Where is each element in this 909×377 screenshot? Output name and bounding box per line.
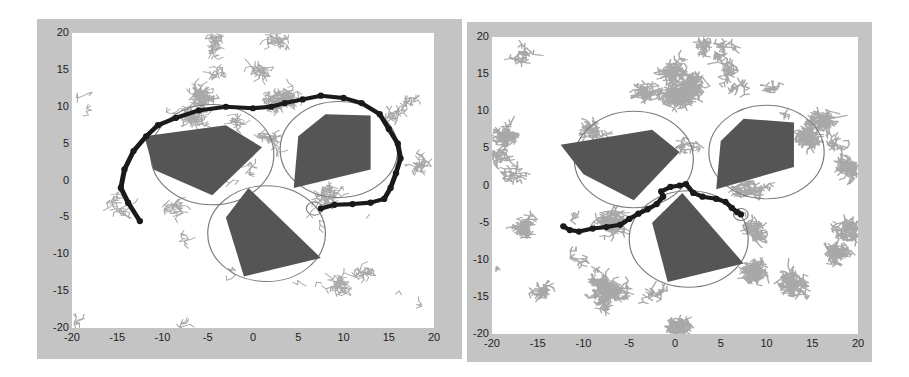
y-tick-label: 15 — [39, 64, 69, 75]
x-tick-label: -20 — [477, 338, 507, 349]
plot-content — [74, 33, 432, 328]
path-node-marker — [603, 224, 609, 230]
y-tick-label: 10 — [39, 101, 69, 112]
path-node-marker — [118, 185, 124, 191]
path-node-marker — [331, 202, 337, 208]
x-tick-label: -15 — [523, 338, 553, 349]
path-node-marker — [358, 100, 364, 106]
path-node-marker — [589, 225, 595, 231]
y-tick-label: 0 — [39, 175, 69, 186]
path-node-marker — [658, 188, 664, 194]
y-tick-label: 0 — [459, 180, 489, 191]
path-node-marker — [387, 185, 393, 191]
obstacle-polygon — [716, 119, 794, 190]
y-tick-label: -5 — [39, 211, 69, 222]
x-tick-label: 5 — [283, 332, 313, 343]
path-node-marker — [635, 211, 641, 217]
x-tick-label: 10 — [329, 332, 359, 343]
path-node-marker — [626, 216, 632, 222]
obstacle-polygon — [294, 114, 371, 188]
y-tick-label: 20 — [459, 31, 489, 42]
y-tick-label: 20 — [39, 27, 69, 38]
y-tick-label: 15 — [459, 68, 489, 79]
obstacle-polygon — [226, 188, 321, 277]
path-node-marker — [155, 122, 161, 128]
path-node-marker — [676, 182, 682, 188]
path-node-marker — [683, 181, 689, 187]
obstacle-polygon — [144, 125, 262, 195]
path-node-marker — [386, 126, 392, 132]
solution-path — [563, 184, 741, 232]
path-node-marker — [340, 95, 346, 101]
path-node-marker — [617, 222, 623, 228]
path-node-marker — [268, 104, 274, 110]
y-tick-label: -10 — [459, 254, 489, 265]
x-tick-label: -5 — [614, 338, 644, 349]
plot-area-left — [72, 33, 434, 328]
x-tick-label: -5 — [193, 332, 223, 343]
path-node-marker — [377, 111, 383, 117]
x-tick-label: -20 — [57, 332, 87, 343]
x-tick-label: 5 — [706, 338, 736, 349]
path-node-marker — [699, 194, 705, 200]
y-tick-label: -5 — [459, 217, 489, 228]
path-node-marker — [250, 105, 256, 111]
path-node-marker — [300, 96, 306, 102]
x-tick-label: 10 — [752, 338, 782, 349]
path-node-marker — [367, 200, 373, 206]
path-node-marker — [713, 196, 719, 202]
path-node-marker — [560, 223, 566, 229]
path-node-marker — [143, 133, 149, 139]
y-tick-label: 10 — [459, 105, 489, 116]
chart-svg-left — [72, 33, 434, 328]
x-tick-label: 20 — [419, 332, 449, 343]
path-node-marker — [137, 218, 143, 224]
plot-area-right — [492, 37, 858, 334]
x-tick-label: 15 — [797, 338, 827, 349]
path-node-marker — [381, 196, 387, 202]
path-node-marker — [125, 200, 131, 206]
path-node-marker — [653, 201, 659, 207]
rrt-tree — [74, 33, 432, 328]
path-node-marker — [349, 201, 355, 207]
plot-content — [492, 38, 858, 334]
path-node-marker — [393, 170, 399, 176]
figure-left: 20151050-5-10-15-20-20-15-10-505101520 — [37, 19, 462, 359]
y-tick-label: 5 — [459, 142, 489, 153]
path-node-marker — [121, 166, 127, 172]
x-tick-label: 20 — [843, 338, 873, 349]
path-node-marker — [173, 115, 179, 121]
path-node-marker — [397, 155, 403, 161]
path-node-marker — [576, 228, 582, 234]
path-node-marker — [567, 227, 573, 233]
path-node-marker — [690, 190, 696, 196]
chart-svg-right — [492, 37, 858, 334]
figure-right: 20151050-5-10-15-20-20-15-10-505101520 — [467, 22, 872, 362]
path-node-marker — [667, 184, 673, 190]
x-tick-label: 0 — [238, 332, 268, 343]
path-node-marker — [223, 104, 229, 110]
path-node-marker — [395, 141, 401, 147]
x-tick-label: 15 — [374, 332, 404, 343]
path-node-marker — [196, 107, 202, 113]
path-node-marker — [282, 100, 288, 106]
x-tick-label: 0 — [660, 338, 690, 349]
path-node-marker — [729, 205, 735, 211]
path-node-marker — [130, 148, 136, 154]
path-node-marker — [722, 199, 728, 205]
path-node-marker — [738, 211, 744, 217]
x-tick-label: -10 — [569, 338, 599, 349]
y-tick-label: -15 — [459, 291, 489, 302]
y-tick-label: -10 — [39, 248, 69, 259]
y-tick-label: 5 — [39, 138, 69, 149]
x-tick-label: -15 — [102, 332, 132, 343]
path-node-marker — [318, 93, 324, 99]
path-node-marker — [644, 206, 650, 212]
y-tick-label: -15 — [39, 285, 69, 296]
path-node-marker — [318, 205, 324, 211]
x-tick-label: -10 — [148, 332, 178, 343]
